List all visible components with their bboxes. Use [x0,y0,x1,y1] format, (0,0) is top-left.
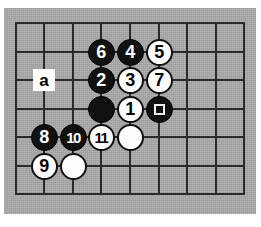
stone-white-plain-c2r5 [60,153,87,180]
stone-7: 7 [146,67,173,94]
grid-line-vertical-0 [15,22,17,195]
stone-white-plain-c4r4 [117,124,144,151]
stone-11: 11 [88,124,115,151]
stone-5: 5 [146,39,173,66]
stone-number: 4 [125,43,135,61]
stone-4: 4 [117,39,144,66]
grid-line-vertical-7 [215,22,217,195]
stone-number: 8 [39,128,49,146]
stone-8: 8 [31,124,58,151]
stone-number: 7 [154,71,164,89]
stone-black-plain-c3r3 [88,96,115,123]
stone-number: 10 [66,130,80,145]
stone-number: 6 [96,43,106,61]
grid-line-vertical-8 [243,22,245,195]
stone-2: 2 [88,67,115,94]
go-board-diagram: 6452371810119 a [0,0,261,227]
stone-6: 6 [88,39,115,66]
stone-number: 3 [125,71,135,89]
grid-line-vertical-6 [186,22,188,195]
stone-10: 10 [60,124,87,151]
stone-1: 1 [117,96,144,123]
point-label-a: a [33,69,55,91]
stone-number: 1 [125,100,135,118]
stone-3: 3 [117,67,144,94]
board-surface: 6452371810119 a [4,8,256,214]
stone-number: 11 [95,130,108,145]
stone-9: 9 [31,153,58,180]
stone-black-marked-c5r3 [146,96,173,123]
stone-number: 9 [39,157,49,175]
stone-number: 2 [96,71,106,89]
stone-number: 5 [154,43,164,61]
square-marker-icon [154,104,165,115]
